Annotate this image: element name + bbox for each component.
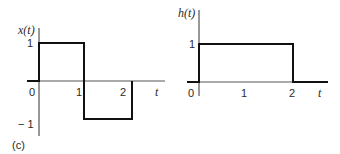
left-ylabel: x(t) xyxy=(17,23,35,37)
left-ytick-1: 1 xyxy=(27,37,33,49)
figure-canvas: x(t) 1 − 1 0 1 2 t (c) h(t) 1 0 1 2 t xyxy=(0,0,340,154)
left-xtick-2: 2 xyxy=(120,86,126,98)
left-xtick-1: 1 xyxy=(76,86,82,98)
right-xtick-2: 2 xyxy=(289,87,295,99)
left-xtick-0: 0 xyxy=(29,86,35,98)
right-ylabel: h(t) xyxy=(178,6,195,20)
right-xtick-1: 1 xyxy=(241,87,247,99)
right-xtick-0: 0 xyxy=(188,87,194,99)
left-plot xyxy=(27,28,165,136)
h-signal xyxy=(187,44,328,82)
left-xlabel: t xyxy=(155,85,159,99)
panel-label: (c) xyxy=(12,139,25,151)
right-plot xyxy=(187,10,328,96)
left-ytick-neg1: − 1 xyxy=(18,118,34,130)
right-xlabel: t xyxy=(318,86,322,100)
right-ytick-1: 1 xyxy=(189,38,195,50)
